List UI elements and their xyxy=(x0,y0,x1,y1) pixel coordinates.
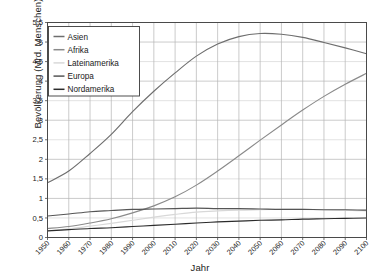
x-tick-label: 2040 xyxy=(225,239,243,257)
legend-label-nordamerika: Nordamerika xyxy=(68,85,115,94)
series-line-lateinamerika xyxy=(48,209,367,231)
x-tick-label: 1990 xyxy=(118,239,136,257)
legend-label-lateinamerika: Lateinamerika xyxy=(68,59,120,68)
y-axis-title: Bevölkerung (Mrd. Menschen) xyxy=(32,0,43,149)
x-tick-label: 1950 xyxy=(33,239,51,257)
x-axis-ticks: 1950196019701980199020002010202020302040… xyxy=(33,238,370,257)
population-line-chart: 00,511,522,533,544,555,5 195019601970198… xyxy=(0,0,381,280)
x-tick-label: 2050 xyxy=(246,239,264,257)
series-line-europa xyxy=(48,208,367,216)
legend-label-afrika: Afrika xyxy=(68,46,89,55)
legend-label-europa: Europa xyxy=(68,72,95,81)
legend-label-asien: Asien xyxy=(68,33,89,42)
x-axis-title: Jahr xyxy=(140,262,260,273)
y-tick-label: 2 xyxy=(39,155,43,164)
series-line-nordamerika xyxy=(48,218,367,231)
x-tick-label: 2000 xyxy=(140,239,158,257)
y-tick-label: 1,5 xyxy=(32,174,43,183)
x-tick-label: 2080 xyxy=(310,239,328,257)
y-tick-label: 0,5 xyxy=(32,214,43,223)
x-tick-label: 2060 xyxy=(267,239,285,257)
x-tick-label: 2020 xyxy=(182,239,200,257)
series-line-afrika xyxy=(48,73,367,228)
x-tick-label: 2090 xyxy=(331,239,349,257)
chart-canvas: 00,511,522,533,544,555,5 195019601970198… xyxy=(0,0,381,280)
x-tick-label: 2010 xyxy=(161,239,179,257)
x-tick-label: 1970 xyxy=(76,239,94,257)
x-tick-label: 2030 xyxy=(204,239,222,257)
x-tick-label: 2070 xyxy=(289,239,307,257)
x-tick-label: 1960 xyxy=(55,239,73,257)
x-tick-label: 1980 xyxy=(97,239,115,257)
y-tick-label: 1 xyxy=(39,194,43,203)
x-tick-label: 2100 xyxy=(352,239,370,257)
chart-legend: AsienAfrikaLateinamerikaEuropaNordamerik… xyxy=(49,27,140,97)
